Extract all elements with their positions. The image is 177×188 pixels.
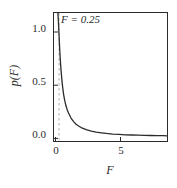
annotation-F-equals-0.25: F = 0.25 [61, 13, 100, 25]
x-axis-label: F [100, 163, 120, 178]
y-tick-label-0: 0.0 [14, 128, 46, 140]
y-axis-label: p(F) [7, 54, 22, 98]
plot-frame [54, 13, 168, 142]
chart-figure: 0.0 0.5 1.0 0 5 p(F) F F = 0.25 [0, 0, 177, 188]
x-tick-label-0: 0 [46, 144, 66, 156]
y-tick-label-2: 1.0 [14, 22, 46, 34]
x-tick-label-1: 5 [111, 144, 131, 156]
